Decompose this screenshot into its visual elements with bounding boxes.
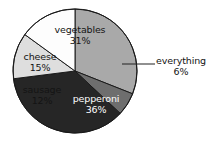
slice-label-everything: everything 6% — [150, 56, 212, 77]
slice-label-vegetables: vegetables 31% — [45, 25, 115, 46]
slice-label-everything-value: 6% — [150, 67, 212, 78]
slice-label-cheese: cheese 15% — [12, 52, 68, 73]
pie-chart: vegetables 31% cheese 15% sausage 12% pe… — [0, 0, 214, 147]
slice-label-cheese-value: 15% — [12, 63, 68, 74]
slice-label-vegetables-value: 31% — [45, 36, 115, 47]
slice-label-pepperoni: pepperoni 36% — [60, 94, 132, 115]
slice-label-pepperoni-value: 36% — [60, 105, 132, 116]
